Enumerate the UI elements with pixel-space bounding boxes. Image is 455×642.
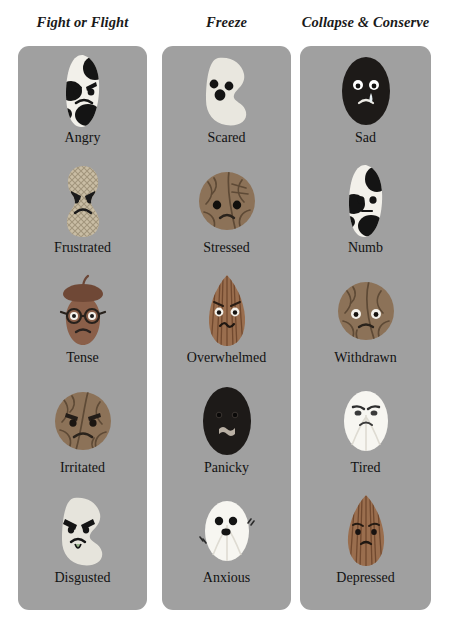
emotion-label: Panicky (204, 461, 249, 475)
overwhelmed-almond-icon (162, 272, 291, 350)
column-header-label: Freeze (162, 14, 291, 31)
column-header-collapse-and-conserve: Collapse & Conserve (300, 14, 431, 37)
emotion-cell: Disgusted (18, 492, 147, 602)
disgusted-bean-icon (18, 492, 147, 570)
anxious-white-bean-icon (162, 492, 291, 570)
panicky-black-bean-icon (162, 382, 291, 460)
scared-bean-icon (162, 52, 291, 130)
depressed-almond-icon (300, 492, 431, 570)
emotion-cell: Withdrawn (300, 272, 431, 382)
emotion-label: Numb (348, 241, 383, 255)
emotion-cell: Frustrated (18, 162, 147, 272)
emotion-label: Tense (66, 351, 98, 365)
tired-white-bean-icon (300, 382, 431, 460)
emotion-cell: Depressed (300, 492, 431, 602)
emotion-cell: Numb (300, 162, 431, 272)
withdrawn-walnut-icon (300, 272, 431, 350)
emotion-label: Tired (351, 461, 381, 475)
emotion-label: Depressed (336, 571, 394, 585)
emotion-label: Stressed (203, 241, 250, 255)
emotion-chart: Fight or Flight Freeze Collapse & Conser… (0, 0, 455, 642)
emotion-label: Scared (207, 131, 245, 145)
emotion-cell: Panicky (162, 382, 291, 492)
emotion-label: Angry (65, 131, 101, 145)
emotion-cell: Overwhelmed (162, 272, 291, 382)
tense-acorn-icon (18, 272, 147, 350)
emotion-cell: Scared (162, 52, 291, 162)
column-header-fight-or-flight: Fight or Flight (18, 14, 147, 37)
emotion-cell: Angry (18, 52, 147, 162)
column-header-freeze: Freeze (162, 14, 291, 37)
emotion-label: Withdrawn (334, 351, 396, 365)
sad-black-bean-icon (300, 52, 431, 130)
angry-bean-icon (18, 52, 147, 130)
emotion-label: Irritated (60, 461, 105, 475)
column-header-label: Collapse & Conserve (300, 14, 431, 31)
columns-container: Angry (0, 46, 455, 610)
frustrated-peanut-icon (18, 162, 147, 240)
emotion-label: Disgusted (55, 571, 111, 585)
column-fight-or-flight: Angry (18, 46, 147, 610)
emotion-label: Sad (355, 131, 376, 145)
emotion-label: Frustrated (54, 241, 111, 255)
stressed-walnut-icon (162, 162, 291, 240)
emotion-cell: Stressed (162, 162, 291, 272)
emotion-label: Anxious (203, 571, 250, 585)
column-freeze: Scared (162, 46, 291, 610)
emotion-cell: Irritated (18, 382, 147, 492)
emotion-cell: Anxious (162, 492, 291, 602)
emotion-label: Overwhelmed (187, 351, 266, 365)
emotion-cell: Tired (300, 382, 431, 492)
emotion-cell: Tense (18, 272, 147, 382)
emotion-cell: Sad (300, 52, 431, 162)
numb-spotted-bean-icon (300, 162, 431, 240)
column-collapse-and-conserve: Sad (300, 46, 431, 610)
column-header-label: Fight or Flight (18, 14, 147, 31)
irritated-walnut-icon (18, 382, 147, 460)
